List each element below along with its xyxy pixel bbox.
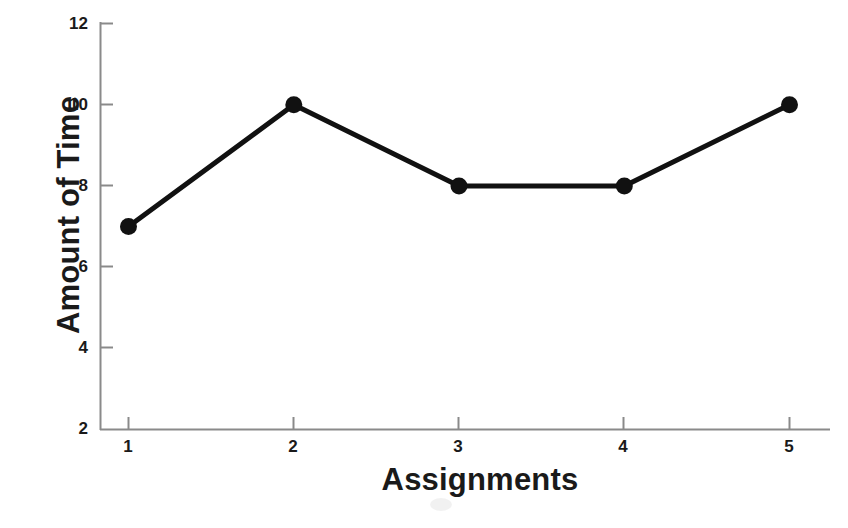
data-point-4 xyxy=(616,177,633,194)
chart-figure: Amount of Time Assignments 12 10 8 6 4 2… xyxy=(0,0,848,528)
data-point-1 xyxy=(120,218,137,235)
y-tick-marks xyxy=(100,24,113,348)
plot-area xyxy=(0,0,848,528)
x-tick-marks xyxy=(129,417,790,430)
data-point-3 xyxy=(451,177,468,194)
data-series-line xyxy=(129,105,790,227)
data-point-2 xyxy=(285,96,302,113)
data-point-5 xyxy=(781,96,798,113)
data-markers xyxy=(120,96,798,235)
